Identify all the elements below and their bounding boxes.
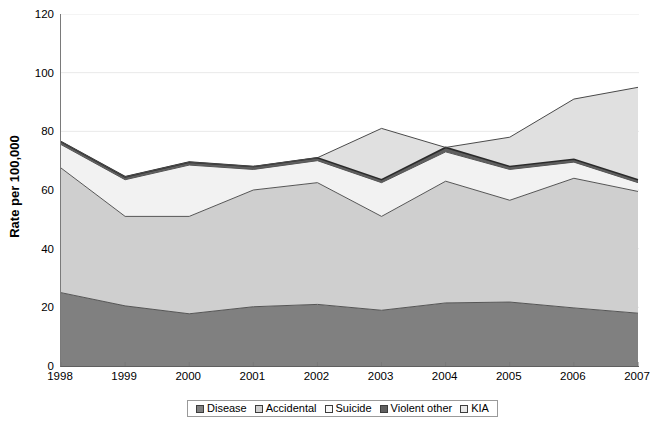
legend-label: Disease — [207, 403, 247, 414]
legend-label: Violent other — [391, 403, 453, 414]
x-tick-label: 2006 — [560, 370, 586, 382]
x-tick-label: 2000 — [175, 370, 201, 382]
x-tick-label: 2003 — [368, 370, 394, 382]
chart-legend: DiseaseAccidentalSuicideViolent otherKIA — [187, 400, 498, 417]
x-tick-label: 2007 — [624, 370, 650, 382]
x-tick-label: 2005 — [496, 370, 522, 382]
x-tick-label: 2004 — [432, 370, 458, 382]
legend-item[interactable]: Violent other — [380, 403, 453, 414]
x-axis-tick-labels: 1998199920002001200220032004200520062007 — [60, 370, 638, 390]
x-tick-label: 1999 — [111, 370, 137, 382]
x-tick-label: 1998 — [47, 370, 73, 382]
y-tick-label: 60 — [41, 184, 54, 196]
legend-swatch-icon — [196, 405, 204, 413]
legend-label: Suicide — [336, 403, 372, 414]
legend-swatch-icon — [325, 405, 333, 413]
y-tick-label: 100 — [35, 67, 54, 79]
x-tick-label: 2001 — [240, 370, 266, 382]
legend-item[interactable]: Disease — [196, 403, 247, 414]
plot-area — [60, 14, 639, 367]
y-tick-label: 20 — [41, 301, 54, 313]
y-axis-title: Rate per 100,000 — [0, 0, 28, 372]
legend-label: KIA — [471, 403, 489, 414]
y-tick-label: 80 — [41, 125, 54, 137]
legend-swatch-icon — [255, 405, 263, 413]
legend-item[interactable]: KIA — [460, 403, 489, 414]
stacked-area-plot — [61, 14, 639, 366]
y-axis-title-text: Rate per 100,000 — [7, 135, 22, 238]
legend-swatch-icon — [380, 405, 388, 413]
legend-item[interactable]: Accidental — [255, 403, 317, 414]
legend-swatch-icon — [460, 405, 468, 413]
y-axis-tick-labels: 020406080100120 — [28, 0, 58, 372]
y-tick-label: 40 — [41, 243, 54, 255]
x-tick-label: 2002 — [304, 370, 330, 382]
legend-label: Accidental — [266, 403, 317, 414]
legend-item[interactable]: Suicide — [325, 403, 372, 414]
y-tick-label: 120 — [35, 8, 54, 20]
